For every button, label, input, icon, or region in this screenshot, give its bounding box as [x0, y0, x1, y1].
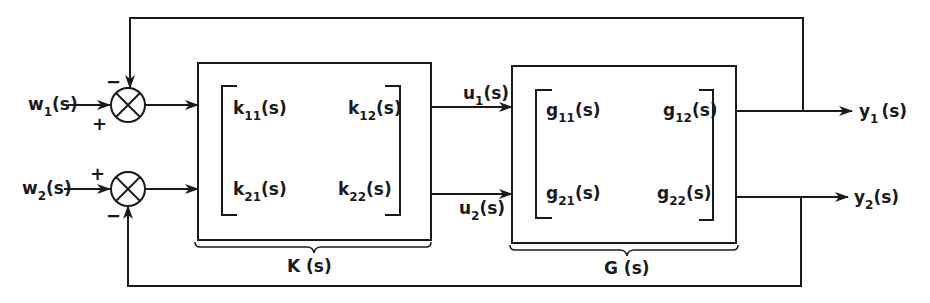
output-y1: y1(s) [859, 101, 907, 126]
summing-junction-2: + − [90, 163, 145, 226]
input-w1: w1(s) [28, 94, 78, 119]
k12-entry: k12(s) [348, 98, 402, 123]
u1-label: u1(s) [463, 83, 509, 108]
k22-entry: k22(s) [338, 179, 392, 204]
summer-1-plus-sign: + [92, 113, 107, 134]
svg-text:w2(s): w2(s) [22, 178, 72, 203]
g12-entry: g12(s) [663, 100, 718, 125]
controller-block: k11(s) k12(s) k21(s) k22(s) K (s) [195, 63, 431, 276]
summing-junction-1: − + [92, 71, 145, 134]
summer-2-minus-sign: − [106, 205, 121, 226]
block-diagram: w1(s) w2(s) − + + − k11(s) k12(s) k21(s)… [0, 0, 930, 303]
g-underbrace [510, 245, 738, 256]
summer-1-minus-sign: − [106, 71, 121, 92]
plant-name: G (s) [604, 258, 650, 278]
summer-2-plus-sign: + [90, 163, 105, 184]
g21-entry: g21(s) [546, 183, 601, 208]
controller-name: K (s) [287, 256, 332, 276]
k11-entry: k11(s) [233, 98, 287, 123]
k21-entry: k21(s) [233, 179, 287, 204]
k-underbrace [195, 242, 431, 253]
plant-block: g11(s) g12(s) g21(s) g22(s) G (s) [510, 66, 738, 278]
u2-label: u2(s) [459, 198, 505, 223]
g22-entry: g22(s) [657, 183, 712, 208]
svg-text:w1(s): w1(s) [28, 94, 78, 119]
g11-entry: g11(s) [546, 100, 601, 125]
input-w2: w2(s) [22, 178, 72, 203]
output-y2: y2(s) [854, 187, 899, 212]
